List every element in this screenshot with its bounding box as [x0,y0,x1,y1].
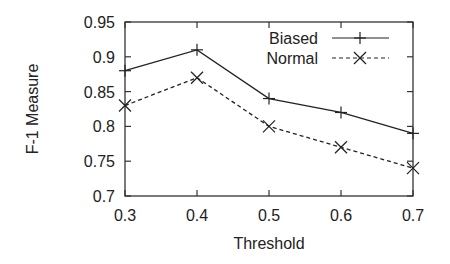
axes: 0.70.750.80.850.90.950.30.40.50.60.7 [84,14,424,224]
line-chart: 0.70.750.80.850.90.950.30.40.50.60.7 Bia… [0,0,450,264]
legend: BiasedNormal [266,30,389,67]
x-axis-label: Threshold [233,235,304,252]
legend-label-biased: Biased [269,30,318,47]
y-tick-label: 0.75 [84,153,115,170]
x-tick-label: 0.4 [186,207,208,224]
y-tick-label: 0.8 [93,118,115,135]
y-axis-label: F-1 Measure [24,64,41,155]
plot-frame [125,22,413,196]
y-tick-label: 0.95 [84,14,115,31]
x-tick-label: 0.6 [330,207,352,224]
series-normal [119,72,419,174]
x-tick-label: 0.3 [114,207,136,224]
series-line [125,78,413,168]
y-tick-label: 0.7 [93,188,115,205]
x-tick-label: 0.5 [258,207,280,224]
y-tick-label: 0.9 [93,49,115,66]
y-tick-label: 0.85 [84,84,115,101]
legend-label-normal: Normal [266,50,318,67]
x-tick-label: 0.7 [402,207,424,224]
